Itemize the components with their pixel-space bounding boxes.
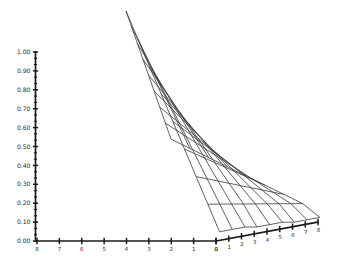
x-tick-label-6: 6	[80, 246, 84, 252]
x-tick-label-7: 7	[58, 246, 61, 252]
z-tick-label-0.50: 0.50	[17, 143, 31, 150]
z-tick-label-0.80: 0.80	[17, 86, 31, 93]
z-tick-label-0.10: 0.10	[17, 218, 31, 225]
z-tick-label-0.90: 0.90	[17, 67, 31, 74]
y-tick-label-8: 8	[317, 227, 321, 233]
z-tick-label-0.40: 0.40	[17, 162, 31, 169]
y-tick-label-2: 2	[240, 241, 243, 247]
z-tick-label-0.00: 0.00	[17, 237, 31, 244]
z-tick-label-0.30: 0.30	[17, 180, 31, 187]
plot-root: 1.000.900.800.700.600.500.400.300.200.10…	[0, 0, 337, 269]
surface-plot-svg: 1.000.900.800.700.600.500.400.300.200.10…	[0, 0, 337, 269]
z-tick-label-0.60: 0.60	[17, 124, 31, 131]
y-tick-label-6: 6	[291, 232, 295, 238]
y-tick-label-3: 3	[253, 239, 256, 245]
x-tick-label-4: 4	[125, 246, 129, 252]
y-tick-label-4: 4	[266, 237, 270, 243]
z-tick-label-0.20: 0.20	[17, 199, 31, 206]
x-tick-label-5: 5	[102, 246, 105, 252]
z-tick-label-1.00: 1.00	[17, 48, 31, 55]
x-tick-label-1: 1	[192, 246, 195, 252]
x-tick-label-8: 8	[35, 246, 39, 252]
x-tick-label-3: 3	[147, 246, 150, 252]
y-tick-label-0: 0	[215, 246, 219, 252]
z-tick-label-0.70: 0.70	[17, 105, 31, 112]
y-tick-label-7: 7	[304, 229, 307, 235]
x-tick-label-2: 2	[170, 246, 173, 252]
y-tick-label-5: 5	[279, 234, 282, 240]
y-tick-label-1: 1	[228, 244, 231, 250]
